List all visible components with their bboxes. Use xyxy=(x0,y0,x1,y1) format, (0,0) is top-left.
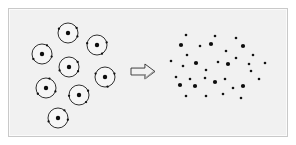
shell-speck-dot xyxy=(76,27,78,29)
diagram-canvas xyxy=(9,9,289,138)
encapsulated-particle xyxy=(58,23,79,43)
shell-speck-dot xyxy=(77,70,79,72)
shell-speck-dot xyxy=(106,86,108,88)
shell-speck-dot xyxy=(85,101,87,103)
free-particle-small xyxy=(185,34,188,37)
free-particle-small xyxy=(225,50,228,53)
free-particle-small xyxy=(199,45,202,48)
shell-speck-dot xyxy=(68,95,70,97)
free-particles-group xyxy=(170,34,267,100)
particle-core-dot xyxy=(77,93,81,97)
free-particle-large xyxy=(213,80,217,84)
shell-speck-dot xyxy=(54,90,56,92)
shell-speck-dot xyxy=(47,120,49,122)
free-particle-small xyxy=(222,93,225,96)
free-particle-small xyxy=(170,60,173,63)
shell-speck-dot xyxy=(32,58,34,60)
free-particle-small xyxy=(240,97,243,100)
particle-core-dot xyxy=(103,75,107,79)
free-particle-small xyxy=(205,69,208,72)
shell-speck-dot xyxy=(77,61,79,63)
free-particle-small xyxy=(248,63,251,66)
free-particle-large xyxy=(179,43,183,47)
shell-speck-dot xyxy=(113,72,115,74)
shell-speck-dot xyxy=(106,41,108,43)
free-particle-small xyxy=(264,62,267,65)
shell-speck-dot xyxy=(67,119,69,121)
free-particle-small xyxy=(250,70,253,73)
shell-speck-dot xyxy=(51,55,53,57)
free-particle-large xyxy=(194,61,198,65)
free-particle-large xyxy=(241,84,245,88)
free-particle-small xyxy=(235,57,238,60)
shell-speck-dot xyxy=(87,90,89,92)
free-particle-large xyxy=(178,83,182,87)
free-particle-large xyxy=(241,44,245,48)
encapsulated-particles-group xyxy=(32,23,116,128)
encapsulated-particle xyxy=(58,57,79,77)
free-particle-large xyxy=(193,84,197,88)
free-particle-small xyxy=(258,78,261,81)
encapsulated-particle xyxy=(47,108,69,128)
shell-speck-dot xyxy=(63,109,65,111)
free-particle-small xyxy=(185,95,188,98)
free-particle-large xyxy=(226,62,230,66)
free-particle-small xyxy=(189,78,192,81)
particle-core-dot xyxy=(44,86,48,90)
shell-speck-dot xyxy=(46,44,48,46)
shell-speck-dot xyxy=(37,93,39,95)
free-particle-small xyxy=(224,78,227,81)
free-particle-small xyxy=(175,76,178,79)
figure-panel xyxy=(8,8,288,137)
transformation-arrow xyxy=(131,64,155,79)
free-particle-small xyxy=(186,54,189,57)
free-particle-large xyxy=(209,42,213,46)
free-particle-small xyxy=(214,35,217,38)
free-particle-small xyxy=(252,54,255,57)
free-particle-small xyxy=(182,65,185,68)
free-particle-small xyxy=(217,61,220,64)
figure-root xyxy=(0,0,296,145)
particle-core-dot xyxy=(95,43,99,47)
shell-speck-dot xyxy=(48,77,50,79)
free-particle-small xyxy=(204,77,207,80)
encapsulated-particle xyxy=(68,85,89,105)
shell-speck-dot xyxy=(58,28,60,30)
encapsulated-particle xyxy=(86,35,108,55)
shell-speck-dot xyxy=(76,35,78,37)
shell-speck-dot xyxy=(86,42,88,44)
shell-speck-dot xyxy=(101,53,103,55)
encapsulated-particle xyxy=(36,77,57,98)
particle-core-dot xyxy=(66,31,70,35)
particle-core-dot xyxy=(40,52,44,56)
arrow-right-icon xyxy=(131,64,155,79)
encapsulated-particle xyxy=(94,67,115,88)
free-particle-small xyxy=(235,37,238,40)
shell-speck-dot xyxy=(58,69,60,71)
particle-core-dot xyxy=(67,65,71,69)
shell-speck-dot xyxy=(94,72,96,74)
encapsulated-particle xyxy=(32,44,53,64)
particle-core-dot xyxy=(56,116,60,120)
free-particle-small xyxy=(232,87,235,90)
free-particle-small xyxy=(205,95,208,98)
